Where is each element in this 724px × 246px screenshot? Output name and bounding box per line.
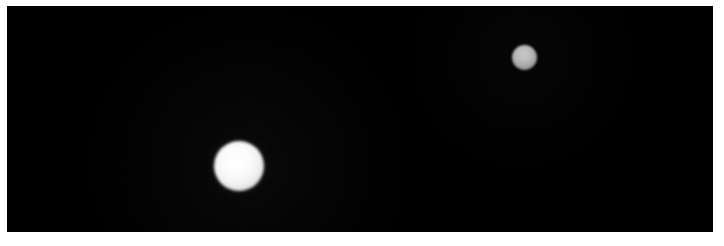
image-frame (0, 0, 724, 246)
sky-background (7, 6, 713, 232)
small-body-halo (505, 38, 544, 77)
large-body-halo (200, 127, 278, 205)
large-celestial-body (214, 141, 264, 191)
sky-field (7, 6, 713, 232)
small-celestial-body (512, 45, 537, 70)
